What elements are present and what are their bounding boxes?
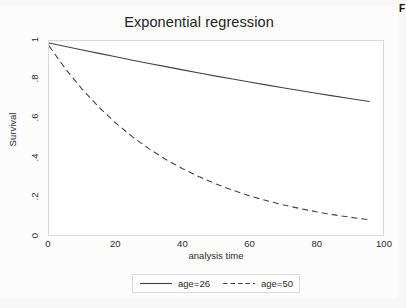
y-axis-title: Survival — [7, 100, 18, 160]
x-tick-label: 40 — [167, 238, 197, 249]
y-tick: 1 — [0, 34, 46, 46]
chart-title: Exponential regression — [0, 14, 398, 30]
corner-figure-label: F — [399, 3, 406, 14]
y-tick: .8 — [0, 73, 46, 85]
legend-line-sample — [139, 279, 173, 288]
legend-label: age=26 — [178, 278, 210, 289]
chart-card: Exponential regression 0.2.4.6.81 Surviv… — [0, 6, 398, 298]
y-tick-label: .6 — [29, 112, 40, 124]
legend-line-sample — [222, 279, 256, 288]
x-tick-label: 20 — [100, 238, 130, 249]
chart-screenshot: F Exponential regression 0.2.4.6.81 Surv… — [0, 0, 406, 308]
x-tick-label: 80 — [302, 238, 332, 249]
y-tick-label: .2 — [29, 190, 40, 202]
y-tick-label: 1 — [29, 34, 40, 46]
legend-label: age=50 — [261, 278, 293, 289]
plot-svg — [49, 41, 383, 235]
x-tick-label: 0 — [33, 238, 63, 249]
plot-area — [48, 40, 384, 236]
y-tick: .2 — [0, 191, 46, 203]
legend-item[interactable]: age=50 — [222, 278, 293, 289]
x-axis-title: analysis time — [48, 250, 384, 261]
series-line-age-26 — [49, 43, 370, 102]
x-tick-label: 60 — [235, 238, 265, 249]
x-tick-label: 100 — [369, 238, 399, 249]
y-tick-label: .4 — [29, 151, 40, 163]
y-tick-label: .8 — [29, 73, 40, 85]
legend-item[interactable]: age=26 — [139, 278, 210, 289]
series-line-age-50 — [49, 46, 370, 220]
legend: age=26age=50 — [132, 274, 300, 293]
